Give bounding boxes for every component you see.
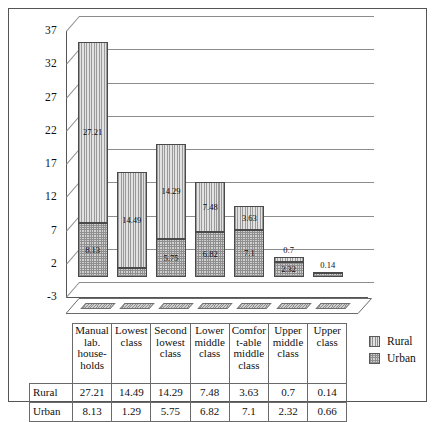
table-cell: 6.82 <box>190 403 229 422</box>
legend-item: Rural <box>369 335 416 347</box>
y-axis-tick-label: 2 <box>23 257 57 269</box>
bar-floor-footprint <box>80 303 115 309</box>
bar-value-label-rural: 7.48 <box>203 203 218 212</box>
bar-value-label-rural: 0.14 <box>307 261 349 270</box>
bar-value-label-urban: 5.75 <box>164 254 179 263</box>
table-cell: 8.13 <box>73 403 112 422</box>
legend-label: Rural <box>387 335 413 347</box>
y-axis-tick-label: 32 <box>23 57 57 69</box>
gridline <box>79 116 374 117</box>
plot-area: 37322722171272-3 27.218.1314.4914.295.75… <box>9 9 428 309</box>
table-column-header: Lower middle class <box>190 324 229 384</box>
stacked-bar[interactable]: 2.32 <box>274 257 304 277</box>
bar-value-label-urban: 2.32 <box>281 265 296 274</box>
table-cell: 7.1 <box>229 403 268 422</box>
gridline <box>79 49 374 50</box>
stacked-bar[interactable]: 27.218.13 <box>78 42 108 277</box>
gridline-depth-connector <box>66 282 80 298</box>
table-cell: 7.48 <box>190 384 229 403</box>
data-table-wrap: Manual lab. house-holdsLowest classSecon… <box>29 323 347 422</box>
bar-segment-rural[interactable]: 3.63 <box>234 206 264 230</box>
bar-value-label-urban: 6.82 <box>203 250 218 259</box>
bar-value-label-urban: 8.13 <box>85 246 100 255</box>
table-cell: 14.49 <box>112 384 151 403</box>
table-header-row: Manual lab. house-holdsLowest classSecon… <box>30 324 347 384</box>
gridline-depth-connector <box>66 16 80 32</box>
bar-segment-urban[interactable]: 8.13 <box>78 223 108 277</box>
table-row-label: Rural <box>30 384 73 403</box>
y-axis-tick-label: 7 <box>23 224 57 236</box>
y-axis-tick-label: 37 <box>23 24 57 36</box>
table-column-header: Upper middle class <box>268 324 307 384</box>
y-axis-tick-label: -3 <box>23 290 57 302</box>
table-cell: 0.66 <box>308 403 347 422</box>
bar-floor-footprint <box>197 303 232 309</box>
y-axis-tick-label: 17 <box>23 157 57 169</box>
bar-segment-rural[interactable]: 27.21 <box>78 42 108 223</box>
bar-value-label-rural: 14.29 <box>161 187 180 196</box>
chart-floor-3d <box>66 297 372 314</box>
bar-floor-footprint <box>158 303 193 309</box>
data-table: Manual lab. house-holdsLowest classSecon… <box>29 323 347 422</box>
table-cell: 14.29 <box>151 384 190 403</box>
table-cell: 5.75 <box>151 403 190 422</box>
bar-value-label-urban: 7.1 <box>244 249 255 258</box>
table-corner-cell <box>30 324 73 384</box>
bar-value-label-rural: 0.7 <box>268 246 310 255</box>
table-row: Rural27.2114.4914.297.483.630.70.14 <box>30 384 347 403</box>
table-cell: 3.63 <box>229 384 268 403</box>
table-column-header: Upper class <box>308 324 347 384</box>
table-cell: 0.7 <box>268 384 307 403</box>
table-row-label: Urban <box>30 403 73 422</box>
table-cell: 1.29 <box>112 403 151 422</box>
bar-segment-urban[interactable] <box>117 268 147 277</box>
bar-floor-footprint <box>119 303 154 309</box>
bar-value-label-rural: 3.63 <box>242 214 257 223</box>
table-column-header: Manual lab. house-holds <box>73 324 112 384</box>
gridline <box>79 16 374 17</box>
table-column-header: Lowest class <box>112 324 151 384</box>
gridline <box>79 83 374 84</box>
bar-segment-urban[interactable]: 5.75 <box>156 239 186 277</box>
table-cell: 27.21 <box>73 384 112 403</box>
legend-swatch-rural <box>369 336 380 347</box>
y-axis-tick-label: 27 <box>23 91 57 103</box>
bar-floor-footprint <box>315 303 350 309</box>
bar-value-label-rural: 14.49 <box>122 216 141 225</box>
stacked-bar[interactable]: 3.637.1 <box>234 206 264 277</box>
table-column-header: Comfor t-able middle class <box>229 324 268 384</box>
table-cell: 2.32 <box>268 403 307 422</box>
legend: RuralUrban <box>369 335 416 369</box>
table-cell: 0.14 <box>308 384 347 403</box>
stacked-bar[interactable] <box>313 272 343 277</box>
table-column-header: Second lowest class <box>151 324 190 384</box>
bar-segment-urban[interactable]: 6.82 <box>195 232 225 277</box>
bar-segment-urban[interactable] <box>313 273 343 277</box>
legend-label: Urban <box>387 352 416 364</box>
bar-segment-rural[interactable]: 14.49 <box>117 172 147 268</box>
gridline <box>79 149 374 150</box>
table-row: Urban8.131.295.756.827.12.320.66 <box>30 403 347 422</box>
stacked-bar[interactable]: 14.49 <box>117 172 147 277</box>
bar-segment-rural[interactable]: 14.29 <box>156 144 186 239</box>
stacked-bar[interactable]: 7.486.82 <box>195 182 225 277</box>
gridline <box>79 282 374 283</box>
bar-value-label-rural: 27.21 <box>83 128 102 137</box>
bar-segment-urban[interactable]: 7.1 <box>234 230 264 277</box>
bar-floor-footprint <box>276 303 311 309</box>
stacked-bar[interactable]: 14.295.75 <box>156 144 186 277</box>
legend-item: Urban <box>369 352 416 364</box>
y-axis-tick-label: 22 <box>23 124 57 136</box>
bar-segment-urban[interactable]: 2.32 <box>274 262 304 277</box>
y-axis-tick-label: 12 <box>23 190 57 202</box>
legend-swatch-urban <box>369 353 380 364</box>
bar-segment-rural[interactable]: 7.48 <box>195 182 225 232</box>
bar-floor-footprint <box>237 303 272 309</box>
chart-frame: 37322722171272-3 27.218.1314.4914.295.75… <box>8 8 427 402</box>
